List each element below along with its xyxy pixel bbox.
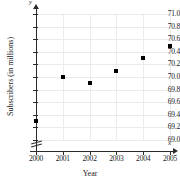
y-tick-label: 69.4 (148, 111, 180, 119)
gridline-vertical (116, 14, 117, 140)
x-axis-line (30, 151, 175, 152)
data-point (114, 69, 118, 73)
y-tick-label: 69.2 (148, 123, 180, 131)
y-tick-mark (33, 77, 38, 78)
y-tick-label: 70.8 (148, 23, 180, 31)
x-tick-label: 2000 (21, 155, 51, 163)
data-point (141, 56, 145, 60)
y-axis-title: Subscribers (in millions) (6, 13, 15, 141)
y-tick-mark (33, 39, 38, 40)
y-tick-mark (33, 27, 38, 28)
y-tick-mark (33, 140, 38, 141)
y-tick-label: 70.2 (148, 60, 180, 68)
y-tick-mark (33, 14, 38, 15)
y-tick-label: 69.8 (148, 86, 180, 94)
data-point (168, 44, 172, 48)
data-point (34, 119, 38, 123)
y-tick-label: 71.0 (148, 10, 180, 18)
x-axis-title: Year (0, 169, 180, 178)
x-tick-label: 2002 (75, 155, 105, 163)
y-tick-label: 70.4 (148, 48, 180, 56)
x-tick-label: 2004 (128, 155, 158, 163)
y-tick-label: 70.0 (148, 73, 180, 81)
y-axis-letter: y (29, 0, 32, 6)
scatter-chart: y x 71.070.870.670.470.270.069.869.669.4… (0, 0, 180, 184)
x-tick-label: 2005 (155, 155, 180, 163)
gridline-vertical (143, 14, 144, 140)
x-tick-label: 2001 (48, 155, 78, 163)
data-point (61, 75, 65, 79)
y-tick-mark (33, 102, 38, 103)
y-tick-label: 70.6 (148, 35, 180, 43)
y-tick-mark (33, 127, 38, 128)
y-tick-mark (33, 90, 38, 91)
x-tick-label: 2003 (101, 155, 131, 163)
y-tick-label: 69.0 (148, 136, 180, 144)
y-tick-mark (33, 115, 38, 116)
data-point (88, 81, 92, 85)
y-axis-line (36, 8, 37, 152)
y-tick-label: 69.6 (148, 98, 180, 106)
y-tick-mark (33, 52, 38, 53)
gridline-vertical (90, 14, 91, 140)
y-tick-mark (33, 64, 38, 65)
y-axis-arrow-icon (33, 4, 39, 9)
y-axis-break-icon (31, 141, 42, 148)
